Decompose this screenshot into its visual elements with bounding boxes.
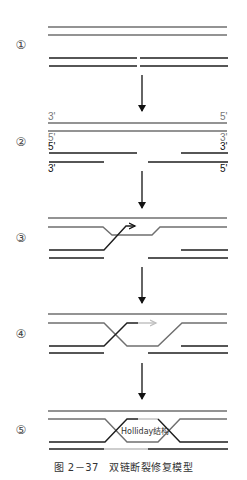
- stage-1-strands: [48, 27, 228, 66]
- end-label-top-right: 5': [220, 112, 227, 122]
- end-label-third-right: 3': [220, 142, 227, 152]
- end-label-top-left: 3': [48, 112, 55, 122]
- end-label-bottom-left: 3': [48, 164, 55, 174]
- stage-number-4: ④: [12, 327, 30, 341]
- end-label-third-left: 5': [48, 142, 55, 152]
- stage-3-strands: [48, 218, 228, 258]
- stage-2-strands: [48, 123, 228, 162]
- stage-number-1: ①: [12, 38, 30, 52]
- dsb-repair-diagram: [0, 0, 247, 480]
- stage-number-5: ⑤: [12, 423, 30, 437]
- stage-4-strands: [48, 314, 228, 353]
- stage-number-3: ③: [12, 231, 30, 245]
- end-label-bottom-right: 5': [220, 164, 227, 174]
- stage-number-2: ②: [12, 135, 30, 149]
- figure-caption: 图 2－37 双链断裂修复模型: [0, 459, 247, 474]
- holliday-structure-label: Holliday结构: [121, 425, 169, 436]
